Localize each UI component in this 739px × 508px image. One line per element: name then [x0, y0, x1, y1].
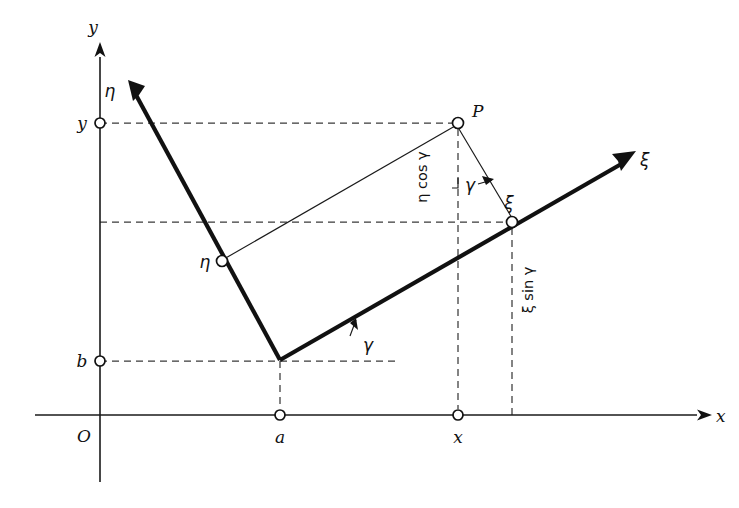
xi-axis-line — [280, 163, 623, 360]
origin-label: O — [77, 426, 91, 446]
coordinate-diagram: y x O ξ η y b a x P ξ η γ γ η cos γ ξ si… — [0, 0, 739, 508]
tick-node-a — [275, 410, 285, 420]
gamma-P-corner-mark — [452, 178, 458, 188]
point-node-P — [453, 118, 464, 129]
point-label-xi: ξ — [503, 193, 514, 213]
eta-axis-line — [136, 95, 280, 360]
y-axis-label: y — [87, 17, 98, 37]
tick-node-y — [95, 118, 105, 128]
gamma-label-at-P: γ — [465, 175, 476, 195]
tick-label-x: x — [453, 427, 463, 447]
tick-node-x — [453, 410, 463, 420]
tick-label-y: y — [76, 113, 87, 133]
dashed-construction-lines — [100, 123, 512, 415]
eta-axis-label: η — [105, 81, 116, 101]
figure-labels: y x O ξ η y b a x P ξ η γ γ η cos γ ξ si… — [76, 17, 726, 447]
point-label-P: P — [471, 101, 484, 121]
eta-cos-gamma-label: η cos γ — [414, 151, 430, 203]
point-node-xi — [507, 217, 518, 228]
point-node-eta — [217, 256, 228, 267]
cartesian-axes — [35, 42, 712, 482]
y-axis-arrowhead — [95, 42, 106, 57]
gamma-label-origin: γ — [363, 335, 374, 355]
figure-root: y x O ξ η y b a x P ξ η γ γ η cos γ ξ si… — [0, 0, 739, 508]
tick-label-a: a — [275, 427, 285, 447]
rotated-axes — [128, 80, 636, 360]
tick-nodes — [95, 118, 518, 421]
xi-axis-label: ξ — [639, 150, 650, 170]
x-axis-arrowhead — [697, 410, 712, 421]
point-label-eta: η — [200, 252, 211, 272]
xi-sin-gamma-label: ξ sin γ — [520, 266, 536, 313]
tick-label-b: b — [77, 351, 88, 371]
tick-node-b — [95, 356, 105, 366]
x-axis-label: x — [716, 406, 726, 426]
